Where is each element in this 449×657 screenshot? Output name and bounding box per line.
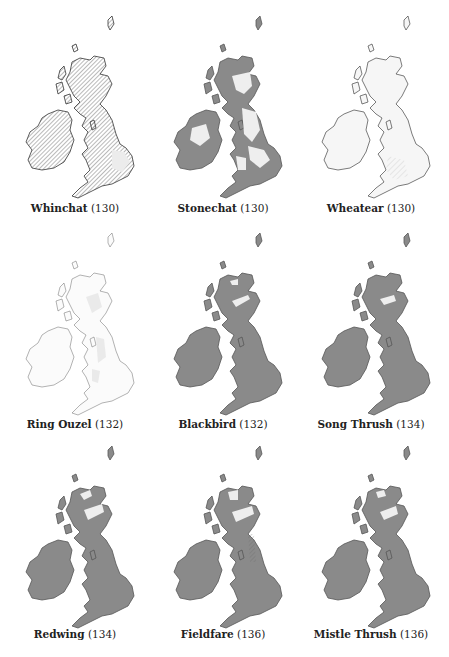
map-cell-stonechat: Stonechat (130) bbox=[148, 0, 298, 215]
song-thrush-distribution-map bbox=[304, 217, 444, 417]
page-reference: (134) bbox=[396, 418, 424, 430]
wheatear-distribution-map bbox=[304, 0, 444, 200]
map-caption: Fieldfare (136) bbox=[148, 628, 298, 640]
species-name: Song Thrush bbox=[318, 418, 393, 430]
page-reference: (136) bbox=[400, 628, 428, 640]
map-cell-wheatear: Wheatear (130) bbox=[296, 0, 446, 215]
map-cell-song-thrush: Song Thrush (134) bbox=[296, 217, 446, 432]
species-name: Redwing bbox=[34, 628, 85, 640]
species-name: Wheatear bbox=[327, 202, 384, 214]
page-reference: (130) bbox=[240, 202, 268, 214]
fieldfare-distribution-map bbox=[156, 430, 296, 630]
map-caption: Ring Ouzel (132) bbox=[0, 418, 150, 430]
map-cell-ring-ouzel: Ring Ouzel (132) bbox=[0, 217, 150, 432]
map-caption: Whinchat (130) bbox=[0, 202, 150, 214]
whinchat-distribution-map bbox=[8, 0, 148, 200]
map-cell-redwing: Redwing (134) bbox=[0, 430, 150, 645]
species-name: Mistle Thrush bbox=[314, 628, 397, 640]
map-caption: Mistle Thrush (136) bbox=[296, 628, 446, 640]
map-cell-fieldfare: Fieldfare (136) bbox=[148, 430, 298, 645]
page-reference: (130) bbox=[387, 202, 415, 214]
map-caption: Wheatear (130) bbox=[296, 202, 446, 214]
distribution-map-grid: Whinchat (130) Stonechat (130) Wheatear … bbox=[0, 0, 449, 657]
map-cell-mistle-thrush: Mistle Thrush (136) bbox=[296, 430, 446, 645]
species-name: Ring Ouzel bbox=[27, 418, 92, 430]
map-caption: Redwing (134) bbox=[0, 628, 150, 640]
map-cell-blackbird: Blackbird (132) bbox=[148, 217, 298, 432]
map-caption: Stonechat (130) bbox=[148, 202, 298, 214]
page-reference: (132) bbox=[95, 418, 123, 430]
species-name: Stonechat bbox=[177, 202, 236, 214]
species-name: Fieldfare bbox=[181, 628, 234, 640]
map-caption: Song Thrush (134) bbox=[296, 418, 446, 430]
redwing-distribution-map bbox=[8, 430, 148, 630]
map-caption: Blackbird (132) bbox=[148, 418, 298, 430]
ring-ouzel-distribution-map bbox=[8, 217, 148, 417]
species-name: Blackbird bbox=[178, 418, 236, 430]
species-name: Whinchat bbox=[31, 202, 88, 214]
page-reference: (130) bbox=[91, 202, 119, 214]
page-reference: (132) bbox=[239, 418, 267, 430]
mistle-thrush-distribution-map bbox=[304, 430, 444, 630]
map-cell-whinchat: Whinchat (130) bbox=[0, 0, 150, 215]
blackbird-distribution-map bbox=[156, 217, 296, 417]
page-reference: (136) bbox=[237, 628, 265, 640]
page-reference: (134) bbox=[88, 628, 116, 640]
stonechat-distribution-map bbox=[156, 0, 296, 200]
